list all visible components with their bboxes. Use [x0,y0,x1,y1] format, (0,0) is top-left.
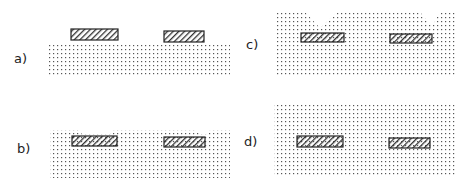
hatched-block [71,29,118,40]
panel-a: a) [14,29,230,75]
hatched-block [390,34,432,43]
hatched-block [297,136,343,147]
panel-label-a: a) [14,51,27,66]
dotted-layer [48,44,230,75]
process-diagram: a) b) c) d) [0,0,470,188]
panel-label-b: b) [17,141,30,156]
hatched-block [164,31,204,42]
hatched-block [301,33,344,42]
panel-d: d) [244,105,456,177]
hatched-block [389,138,430,148]
panel-label-d: d) [244,134,257,149]
panel-b: b) [17,130,230,178]
hatched-block [72,136,117,146]
dotted-layer [277,12,456,77]
panel-label-c: c) [246,37,258,52]
hatched-block [164,137,205,147]
panel-c: c) [246,12,456,77]
